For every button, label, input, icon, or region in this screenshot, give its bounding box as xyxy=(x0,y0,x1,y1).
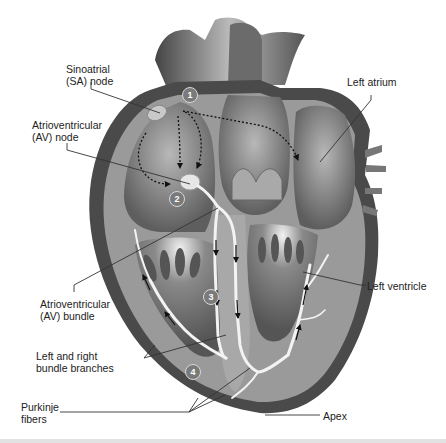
label-line: (AV) bundle xyxy=(40,310,110,322)
label-line: fibers xyxy=(21,413,59,425)
step-badge-3: 3 xyxy=(203,289,219,305)
label-sa-node: Sinoatrial (SA) node xyxy=(66,63,113,87)
label-line: Left atrium xyxy=(347,76,397,88)
label-line: Atrioventricular xyxy=(40,298,110,310)
label-line: Atrioventricular xyxy=(32,119,102,131)
label-line: Left ventricle xyxy=(367,280,427,292)
label-bundle-branches: Left and right bundle branches xyxy=(36,350,114,374)
label-line: (AV) node xyxy=(32,131,102,143)
heart-conduction-diagram: Sinoatrial (SA) node Atrioventricular (A… xyxy=(0,0,446,443)
bottom-divider xyxy=(0,439,446,443)
label-line: Apex xyxy=(323,410,347,422)
label-line: Left and right xyxy=(36,350,114,362)
label-left-atrium: Left atrium xyxy=(347,76,397,88)
step-badge-4: 4 xyxy=(185,364,201,380)
left-atrium xyxy=(293,106,355,230)
label-line: (SA) node xyxy=(66,75,113,87)
step-badge-1: 1 xyxy=(182,87,198,103)
label-line: Purkinje xyxy=(21,401,59,413)
label-purkinje-fibers: Purkinje fibers xyxy=(21,401,59,425)
label-av-bundle: Atrioventricular (AV) bundle xyxy=(40,298,110,322)
label-av-node: Atrioventricular (AV) node xyxy=(32,119,102,143)
label-line: bundle branches xyxy=(36,362,114,374)
label-left-ventricle: Left ventricle xyxy=(367,280,427,292)
label-line: Sinoatrial xyxy=(66,63,113,75)
step-badge-2: 2 xyxy=(169,191,185,207)
label-apex: Apex xyxy=(323,410,347,422)
